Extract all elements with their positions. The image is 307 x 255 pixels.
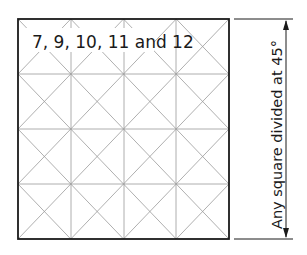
square-diagram: 7, 9, 10, 11 and 12 Any square divided a… <box>0 0 307 255</box>
arrow-up-icon <box>283 20 289 30</box>
dimension-label: Any square divided at 45° <box>269 40 285 229</box>
figure-numbers-label: 7, 9, 10, 11 and 12 <box>32 32 194 52</box>
